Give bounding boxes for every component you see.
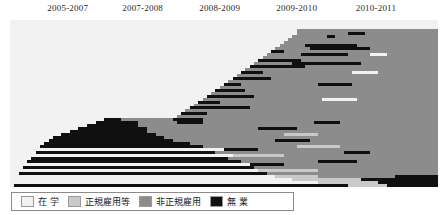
legend-swatch-none: [210, 196, 223, 207]
period-label-3: 2008-2009: [180, 3, 260, 13]
sequence-segment-none: [14, 184, 348, 187]
legend-item-regular[interactable]: 正規雇用等: [68, 195, 130, 208]
plot-area: [10, 20, 438, 187]
period-label-1: 2005-2007: [28, 3, 108, 13]
legend-label: 非正規雇用: [156, 195, 201, 208]
legend-label: 在 学: [38, 195, 59, 208]
legend-item-nonregular[interactable]: 非正規雇用: [139, 195, 201, 208]
legend-swatch-school: [21, 196, 34, 207]
period-label-5: 2010-2011: [336, 3, 416, 13]
legend-swatch-regular: [68, 196, 81, 207]
period-label-2: 2007-2008: [103, 3, 183, 13]
sequence-segment-none: [387, 184, 438, 187]
sequence-row: [10, 184, 438, 187]
sequence-index-chart: 2005-20072007-20082008-20092009-20102010…: [0, 0, 448, 215]
legend-swatch-nonregular: [139, 196, 152, 207]
period-label-4: 2009-2010: [257, 3, 337, 13]
legend-item-none[interactable]: 無 業: [210, 195, 248, 208]
legend-item-school[interactable]: 在 学: [21, 195, 59, 208]
sequence-segment-regular: [348, 184, 387, 187]
legend-label: 正規雇用等: [85, 195, 130, 208]
legend-label: 無 業: [227, 195, 248, 208]
period-axis: 2005-20072007-20082008-20092009-20102010…: [0, 0, 448, 20]
chart-legend: 在 学正規雇用等非正規雇用無 業: [11, 192, 294, 211]
